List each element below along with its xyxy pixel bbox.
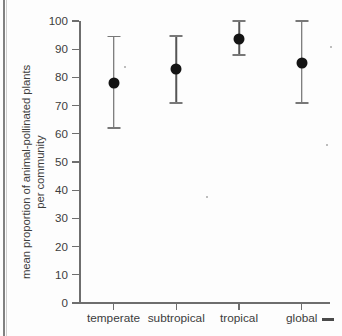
x-axis-tick-mark	[301, 303, 302, 310]
y-axis-tick-mark	[72, 49, 79, 50]
page-gutter-artifact	[3, 0, 5, 336]
error-bar-cap-upper-subtropical	[170, 35, 183, 37]
y-axis-tick-label: 50	[42, 156, 68, 168]
scan-speck-artifact	[124, 66, 126, 68]
y-axis-title-line-1: mean proportion of animal-pollinated pla…	[19, 65, 33, 279]
scan-speck-artifact	[330, 46, 332, 48]
error-bar-cap-lower-global	[295, 102, 308, 104]
data-point-global	[296, 58, 307, 69]
y-axis-tick-label: 10	[42, 269, 68, 281]
error-bar-cap-lower-temperate	[107, 127, 120, 129]
y-axis-tick-mark	[72, 302, 79, 303]
error-bar-cap-upper-temperate	[107, 36, 120, 38]
y-axis-tick-mark	[72, 161, 79, 162]
scan-speck-artifact	[326, 144, 328, 146]
error-bar-cap-lower-tropical	[233, 54, 246, 56]
y-axis-tick-mark	[72, 274, 79, 275]
y-axis-tick-mark	[72, 20, 79, 21]
y-axis-tick-label: 20	[42, 241, 68, 253]
y-axis-tick-label: 60	[42, 128, 68, 140]
data-point-temperate	[108, 78, 119, 89]
y-axis-tick-label: 70	[42, 100, 68, 112]
y-axis-line	[79, 21, 81, 304]
x-axis-tick-label-global: global	[286, 312, 318, 325]
y-axis-tick-mark	[72, 105, 79, 106]
y-axis-tick-mark	[72, 246, 79, 247]
x-axis-tick-mark	[238, 303, 239, 310]
x-axis-tick-mark	[113, 303, 114, 310]
data-point-subtropical	[171, 63, 182, 74]
y-axis-tick-label: 30	[42, 212, 68, 224]
x-axis-tick-label-subtropical: subtropical	[148, 312, 205, 325]
error-bar-cap-upper-tropical	[233, 20, 246, 22]
y-axis-tick-label: 40	[42, 184, 68, 196]
x-axis-tick-mark	[176, 303, 177, 310]
y-axis-tick-label: 90	[42, 43, 68, 55]
y-axis-tick-label: 80	[42, 71, 68, 83]
data-point-tropical	[234, 33, 245, 44]
error-bar-cap-upper-global	[295, 20, 308, 22]
y-axis-tick-mark	[72, 218, 79, 219]
y-axis-title-line-2: per community	[33, 135, 47, 208]
y-axis-tick-label: 0	[42, 297, 68, 309]
page-gutter-artifact-secondary	[6, 0, 7, 336]
error-bar-cap-lower-subtropical	[170, 102, 183, 104]
x-axis-line	[79, 302, 330, 304]
y-axis-tick-label: 100	[42, 15, 68, 27]
y-axis-tick-mark	[72, 77, 79, 78]
x-axis-tick-label-tropical: tropical	[220, 312, 258, 325]
scan-speck-artifact	[206, 196, 208, 198]
y-axis-tick-mark	[72, 190, 79, 191]
scan-edge-mark-artifact	[322, 318, 334, 321]
y-axis-tick-mark	[72, 133, 79, 134]
chart-figure: mean proportion of animal-pollinated pla…	[0, 0, 342, 336]
x-axis-tick-label-temperate: temperate	[87, 312, 140, 325]
